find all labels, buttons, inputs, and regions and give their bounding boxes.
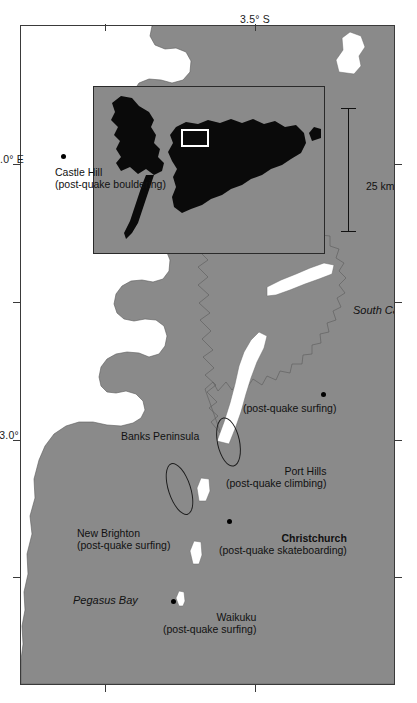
tick-bottom-4: [395, 164, 402, 165]
scale-bar: [339, 108, 359, 232]
label-south-canterbury-bight: South Canterbury Bight: [353, 304, 395, 316]
label-port-hills: Port Hills (post-quake climbing): [226, 465, 326, 490]
tick-bottom-1: [395, 577, 402, 578]
scale-bar-label: 25 km: [366, 180, 395, 192]
label-christchurch-name: Christchurch: [219, 532, 347, 544]
marker-dot-waikuku: [171, 599, 176, 604]
tick-bottom-3: [395, 302, 402, 303]
label-pegasus-bay: Pegasus Bay: [73, 594, 138, 606]
label-banks-surf-activity: (post-quake surfing): [243, 402, 336, 414]
label-port-hills-name: Port Hills: [226, 465, 326, 477]
label-waikuku-activity: (post-quake surfing): [163, 623, 256, 635]
label-castle-hill: Castle Hill (post-quake bouldering): [55, 166, 166, 191]
label-new-brighton-activity: (post-quake surfing): [77, 539, 170, 551]
label-castle-hill-name: Castle Hill: [55, 166, 166, 178]
label-new-brighton: New Brighton (post-quake surfing): [77, 527, 170, 552]
label-port-hills-activity: (post-quake climbing): [226, 477, 326, 489]
tick-left-2: [255, 685, 256, 692]
scale-bar-line: [348, 108, 349, 232]
marker-dot-banks-surf: [321, 392, 326, 397]
map-frame: Waikuku (post-quake surfing) New Brighto…: [20, 25, 395, 685]
label-waikuku-name: Waikuku: [163, 611, 256, 623]
label-banks-peninsula: Banks Peninsula: [121, 430, 199, 442]
label-new-brighton-name: New Brighton: [77, 527, 170, 539]
marker-dot-castle-hill: [61, 154, 66, 159]
label-christchurch: Christchurch (post-quake skateboarding): [219, 532, 347, 557]
map-rotation-wrapper: Waikuku (post-quake surfing) New Brighto…: [0, 0, 417, 703]
label-banks-peninsula-name: Banks Peninsula: [121, 430, 199, 442]
label-christchurch-activity: (post-quake skateboarding): [219, 544, 347, 556]
axis-label-longitude-172: 172.0° E: [0, 153, 24, 165]
map-figure: Waikuku (post-quake surfing) New Brighto…: [0, 0, 417, 703]
tick-top-3: [13, 302, 20, 303]
tick-left-1: [105, 685, 106, 692]
map-plate: Waikuku (post-quake surfing) New Brighto…: [0, 0, 417, 703]
marker-dot-christchurch: [227, 519, 232, 524]
tick-right-1: [105, 24, 106, 31]
label-waikuku: Waikuku (post-quake surfing): [163, 611, 256, 636]
axis-label-longitude-173: 173.0°: [0, 429, 19, 441]
axis-label-latitude-43-5: 3.5° S: [240, 13, 270, 25]
label-castle-hill-activity: (post-quake bouldering): [55, 178, 166, 190]
label-banks-surf: (post-quake surfing): [243, 402, 336, 414]
tick-bottom-2: [395, 440, 402, 441]
tick-top-1: [13, 577, 20, 578]
scale-bar-end-right: [341, 108, 356, 109]
scale-bar-end-left: [341, 231, 356, 232]
tick-right-2: [255, 24, 256, 31]
